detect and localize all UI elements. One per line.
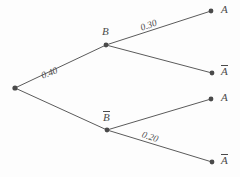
node-label-A-top: A <box>221 4 228 15</box>
node-B <box>104 43 109 48</box>
node-label-Bbar: B <box>103 111 110 124</box>
node-label-A-bottom: A <box>221 92 228 103</box>
node-label-Bbar-text: B <box>103 111 110 124</box>
node-Abar-bottom <box>210 160 215 165</box>
node-root <box>12 85 17 90</box>
node-A-bottom <box>209 97 214 102</box>
edge-root-to-B <box>15 45 106 88</box>
node-Abar-top <box>210 71 215 76</box>
node-label-Abar-top: A <box>221 65 228 78</box>
node-label-Abar-top-text: A <box>221 65 228 78</box>
nodes-group <box>12 9 214 165</box>
node-label-Abar-bottom-text: A <box>221 154 228 167</box>
edges-group <box>15 11 212 162</box>
node-A-top <box>209 9 214 14</box>
node-label-A-bottom-text: A <box>221 91 228 103</box>
node-label-B-text: B <box>102 25 109 37</box>
edge-Bbar-to-A <box>107 99 211 130</box>
probability-tree-diagram: B B A A A A 0.40 0.30 0.20 <box>0 0 240 177</box>
edge-B-to-Abar <box>106 45 212 73</box>
tree-edges-and-nodes <box>0 0 240 177</box>
edge-root-to-Bbar <box>15 88 107 130</box>
node-label-Abar-bottom: A <box>221 154 228 167</box>
node-Bbar <box>105 128 110 133</box>
edge-B-to-A <box>106 11 211 45</box>
node-label-A-top-text: A <box>221 3 228 15</box>
node-label-B: B <box>102 26 109 37</box>
